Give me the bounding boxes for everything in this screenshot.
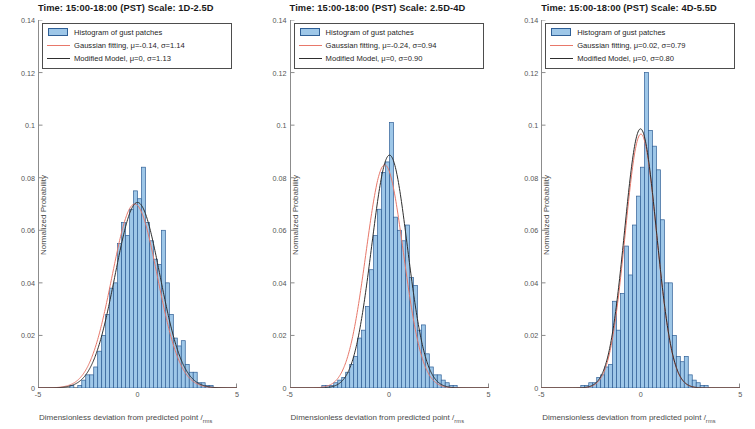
histogram-bar	[665, 283, 669, 388]
histogram-bar	[161, 230, 165, 388]
legend-label-histogram: Histogram of gust patches	[577, 28, 665, 37]
legend-row: Histogram of gust patches	[549, 26, 731, 39]
legend-row: Gaussian fitting, μ=0.02, σ=0.79	[549, 39, 731, 52]
y-tick-label: 0.04	[21, 278, 35, 287]
histogram-bar	[629, 275, 633, 388]
histogram-bar	[169, 314, 173, 388]
x-tick-label: 0	[387, 390, 391, 399]
x-axis-label-subscript: rms	[203, 418, 213, 424]
histogram-bar	[637, 196, 641, 388]
y-tick-label: 0.06	[524, 226, 538, 235]
legend-label-histogram: Histogram of gust patches	[326, 28, 414, 37]
legend-swatch-histogram	[298, 27, 323, 38]
legend-row: Modified Model, μ=0, σ=0.80	[549, 52, 731, 65]
histogram-bar	[373, 236, 377, 388]
histogram-bar	[633, 225, 637, 388]
x-axis-label: Dimensionless deviation from predicted p…	[0, 413, 252, 424]
histogram-bar	[625, 246, 629, 388]
histogram-bar	[605, 367, 609, 388]
legend-row: Gaussian fitting, μ=-0.24, σ=0.94	[298, 39, 480, 52]
chart-panel-3: Time: 15:00-18:00 (PST) Scale: 4D-5.5DNo…	[503, 0, 755, 429]
y-tick-label: 0.04	[524, 278, 538, 287]
swatch-box	[300, 28, 320, 36]
histogram-bar	[114, 283, 118, 388]
figure-container: Time: 15:00-18:00 (PST) Scale: 1D-2.5DNo…	[0, 0, 755, 429]
histogram-bar	[141, 167, 145, 388]
histogram-bar	[102, 335, 106, 388]
histogram-bars	[70, 167, 213, 388]
x-axis-label: Dimensionless deviation from predicted p…	[252, 413, 504, 424]
y-tick-label: 0.08	[273, 173, 287, 182]
legend-line-model	[549, 53, 574, 64]
histogram-bar	[149, 241, 153, 388]
line-sample	[47, 58, 70, 59]
histogram-bar	[134, 191, 138, 388]
histogram-bar	[94, 367, 98, 388]
histogram-bar	[86, 375, 90, 388]
panel-title: Time: 15:00-18:00 (PST) Scale: 2.5D-4D	[252, 3, 504, 13]
swatch-box	[551, 28, 571, 36]
histogram-bar	[90, 375, 94, 388]
y-tick-label: 0.14	[273, 16, 287, 25]
y-tick-label: 0.1	[25, 121, 35, 130]
line-sample	[299, 58, 322, 59]
histogram-bar	[361, 330, 365, 388]
histogram-bar	[365, 307, 369, 388]
panel-title: Time: 15:00-18:00 (PST) Scale: 4D-5.5D	[503, 3, 755, 13]
legend-line-model	[46, 53, 71, 64]
legend-swatch-histogram	[46, 27, 71, 38]
line-sample	[550, 58, 573, 59]
x-axis-label-subscript: rms	[454, 418, 464, 424]
histogram-bar	[126, 236, 130, 388]
x-tick-label: -5	[538, 390, 544, 399]
histogram-bars	[321, 123, 456, 388]
histogram-bar	[82, 380, 86, 388]
histogram-bar	[369, 270, 373, 388]
x-tick-label: -5	[35, 390, 41, 399]
legend-label-gaussian: Gaussian fitting, μ=0.02, σ=0.79	[577, 41, 685, 50]
y-tick-label: 0.02	[21, 331, 35, 340]
y-tick-label: 0.06	[21, 226, 35, 235]
plot-area: 00.020.040.060.080.10.120.14-505Histogra…	[38, 20, 237, 388]
chart-panel-2: Time: 15:00-18:00 (PST) Scale: 2.5D-4DNo…	[252, 0, 504, 429]
y-tick-label: 0.14	[524, 16, 538, 25]
histogram-bar	[617, 330, 621, 388]
x-tick-label: -5	[286, 390, 292, 399]
histogram-bar	[393, 217, 397, 388]
histogram-bars	[581, 73, 708, 388]
histogram-bar	[377, 209, 381, 388]
histogram-bar	[357, 338, 361, 388]
histogram-bar	[621, 293, 625, 388]
histogram-bar	[157, 264, 161, 388]
x-tick-label: 5	[235, 390, 239, 399]
histogram-bar	[645, 73, 649, 388]
legend-row: Gaussian fitting, μ=-0.14, σ=1.14	[46, 39, 228, 52]
histogram-bar	[389, 123, 393, 388]
y-tick-label: 0.08	[21, 173, 35, 182]
histogram-bar	[409, 278, 413, 388]
plot-area: 00.020.040.060.080.10.120.14-505Histogra…	[541, 20, 740, 388]
legend-line-gaussian	[46, 40, 71, 51]
legend-label-model: Modified Model, μ=0, σ=1.13	[74, 54, 171, 63]
y-tick-label: 0.1	[528, 121, 538, 130]
chart-legend: Histogram of gust patchesGaussian fittin…	[42, 23, 232, 69]
panel-title: Time: 15:00-18:00 (PST) Scale: 1D-2.5D	[0, 3, 252, 13]
x-tick-label: 0	[639, 390, 643, 399]
legend-line-gaussian	[549, 40, 574, 51]
x-axis-label-text: Dimensionless deviation from predicted p…	[542, 413, 701, 422]
legend-row: Histogram of gust patches	[46, 26, 228, 39]
y-tick-label: 0.02	[524, 331, 538, 340]
x-axis-label: Dimensionless deviation from predicted p…	[503, 413, 755, 424]
legend-label-gaussian: Gaussian fitting, μ=-0.24, σ=0.94	[326, 41, 437, 50]
legend-row: Modified Model, μ=0, σ=1.13	[46, 52, 228, 65]
histogram-bar	[145, 222, 149, 388]
swatch-box	[48, 28, 68, 36]
line-sample	[550, 45, 573, 46]
plot-canvas	[290, 20, 489, 388]
histogram-bar	[641, 167, 645, 388]
histogram-bar	[110, 288, 114, 388]
legend-label-model: Modified Model, μ=0, σ=0.90	[326, 54, 423, 63]
y-tick-label: 0.12	[273, 68, 287, 77]
y-tick-label: 0.06	[273, 226, 287, 235]
legend-swatch-histogram	[549, 27, 574, 38]
